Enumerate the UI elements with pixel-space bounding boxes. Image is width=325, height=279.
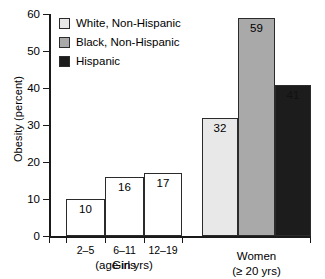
legend-label-hispanic: Hispanic bbox=[76, 56, 120, 68]
bar-value-girls-6-11: 16 bbox=[105, 181, 144, 193]
x-tick-girls-1 bbox=[105, 237, 106, 243]
legend-item-white-non-hispanic: White, Non-Hispanic bbox=[59, 14, 181, 33]
x-tick-left-edge bbox=[49, 237, 50, 243]
x-tick-right-edge bbox=[310, 237, 311, 243]
group-sublabel-women: (≥ 20 yrs) bbox=[198, 265, 315, 277]
bar-women-black bbox=[238, 18, 275, 236]
x-tick-girls-start bbox=[66, 237, 67, 243]
bar-women-hispanic bbox=[275, 85, 311, 236]
group-sublabel-girls: (age in yrs) bbox=[50, 259, 198, 271]
legend-label-white-non-hispanic: White, Non-Hispanic bbox=[76, 18, 181, 30]
legend-item-hispanic: Hispanic bbox=[59, 52, 181, 71]
x-tick-girls-2 bbox=[144, 237, 145, 243]
y-tick-label-60: 60 bbox=[0, 8, 40, 20]
group-label-women: Women bbox=[198, 250, 315, 262]
obesity-bar-chart: Obesity (percent) 0 10 20 30 40 50 60 10… bbox=[0, 0, 325, 279]
y-tick-30 bbox=[43, 125, 49, 126]
y-tick-60 bbox=[43, 14, 49, 15]
y-tick-label-20: 20 bbox=[0, 156, 40, 168]
y-tick-label-40: 40 bbox=[0, 82, 40, 94]
legend-swatch-white-non-hispanic bbox=[59, 18, 70, 29]
y-tick-label-10: 10 bbox=[0, 193, 40, 205]
bar-value-girls-12-19: 17 bbox=[144, 177, 182, 189]
bar-women-white bbox=[202, 118, 238, 236]
legend-item-black-non-hispanic: Black, Non-Hispanic bbox=[59, 33, 181, 52]
bar-value-women-black: 59 bbox=[238, 22, 275, 34]
y-axis-line bbox=[49, 14, 51, 237]
y-tick-label-30: 30 bbox=[0, 119, 40, 131]
y-tick-20 bbox=[43, 162, 49, 163]
legend-swatch-hispanic bbox=[59, 56, 70, 67]
legend-label-black-non-hispanic: Black, Non-Hispanic bbox=[76, 37, 180, 49]
legend: White, Non-Hispanic Black, Non-Hispanic … bbox=[59, 14, 181, 71]
y-tick-10 bbox=[43, 199, 49, 200]
x-tick-girls-end bbox=[182, 237, 183, 243]
x-label-girls-2-5: 2–5 bbox=[66, 244, 105, 256]
y-tick-label-50: 50 bbox=[0, 45, 40, 57]
bar-value-women-hispanic: 41 bbox=[275, 89, 311, 101]
bar-value-women-white: 32 bbox=[202, 122, 238, 134]
y-tick-label-0: 0 bbox=[0, 230, 40, 242]
bar-value-girls-2-5: 10 bbox=[66, 203, 105, 215]
y-tick-40 bbox=[43, 88, 49, 89]
legend-swatch-black-non-hispanic bbox=[59, 37, 70, 48]
x-label-girls-12-19: 12–19 bbox=[144, 244, 182, 256]
y-tick-50 bbox=[43, 51, 49, 52]
x-axis-line bbox=[49, 236, 311, 238]
x-label-girls-6-11: 6–11 bbox=[105, 244, 144, 256]
